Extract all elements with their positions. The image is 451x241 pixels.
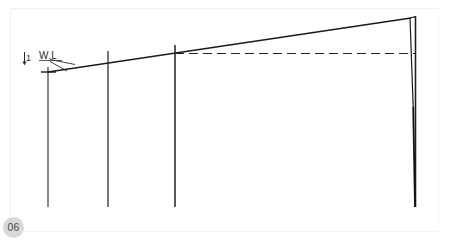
wedge-top-cap xyxy=(410,17,416,18)
page-number-badge: 06 xyxy=(3,217,24,238)
leader-line-lower xyxy=(50,62,67,72)
sloped-top-line xyxy=(48,18,411,72)
dimension-label: 1 xyxy=(26,53,31,63)
technical-line-drawing xyxy=(0,0,451,241)
wedge-edge-upper xyxy=(410,18,413,107)
waterline-label: W.L xyxy=(39,50,57,61)
diagram-canvas: 1 W.L 06 xyxy=(0,0,451,241)
